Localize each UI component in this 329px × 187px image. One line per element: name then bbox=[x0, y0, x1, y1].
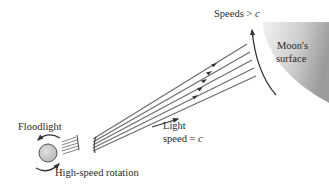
speeds-label: Speeds > c bbox=[214, 8, 260, 19]
rotation-label: High-speed rotation bbox=[55, 167, 139, 178]
light-speed-label: speed = c bbox=[163, 133, 203, 144]
floodlight-stub-beam bbox=[62, 135, 79, 154]
rotation-arrow-top-icon bbox=[38, 135, 60, 140]
moon-label-line1: Moon's bbox=[277, 40, 308, 51]
beam-origin-bracket bbox=[94, 137, 96, 153]
light-label: Light bbox=[163, 120, 186, 131]
floodlight-label: Floodlight bbox=[18, 121, 62, 132]
floodlight-moon-diagram: Floodlight High-speed rotation Light spe… bbox=[0, 0, 329, 187]
moon-label-line2: surface bbox=[276, 53, 307, 64]
floodlight-lamp-icon bbox=[39, 144, 57, 162]
